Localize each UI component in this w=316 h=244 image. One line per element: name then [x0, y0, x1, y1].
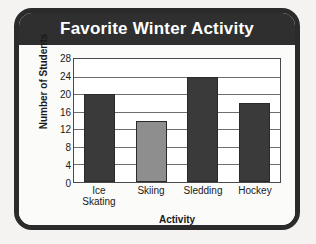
x-tick-label: IceSkating	[73, 185, 125, 207]
chart-card: Favorite Winter Activity Number of Stude…	[14, 8, 300, 230]
x-tick-label: Sledding	[177, 185, 229, 207]
x-axis-tick-labels: IceSkatingSkiingSleddingHockey	[73, 185, 281, 207]
chart-body: Number of Students 0481216202428 IceSkat…	[19, 46, 295, 225]
y-tick-label: 28	[60, 53, 71, 64]
y-tick-label: 12	[60, 124, 71, 135]
x-axis-label: Activity	[73, 214, 281, 225]
chart-header-bar: Favorite Winter Activity	[18, 12, 296, 45]
bar-series	[74, 59, 280, 182]
bar-slot	[74, 59, 126, 182]
chart-title: Favorite Winter Activity	[60, 19, 254, 39]
x-tick-label: Hockey	[229, 185, 281, 207]
bar-skiing	[136, 121, 167, 183]
y-axis-tick-labels: 0481216202428	[49, 58, 71, 183]
y-tick-label: 8	[65, 142, 71, 153]
y-axis-label: Number of Students	[38, 22, 49, 142]
y-tick-label: 24	[60, 70, 71, 81]
y-tick-label: 20	[60, 88, 71, 99]
bar-slot	[229, 59, 281, 182]
plot-area	[73, 58, 281, 183]
bar-hockey	[239, 103, 270, 182]
y-tick-label: 4	[65, 160, 71, 171]
bar-slot	[126, 59, 178, 182]
y-tick-label: 0	[65, 178, 71, 189]
y-tick-label: 16	[60, 106, 71, 117]
bar-slot	[177, 59, 229, 182]
bar-sledding	[187, 77, 218, 182]
page-background: Favorite Winter Activity Number of Stude…	[0, 0, 316, 244]
bar-ice-skating	[84, 94, 115, 182]
x-tick-label: Skiing	[125, 185, 177, 207]
